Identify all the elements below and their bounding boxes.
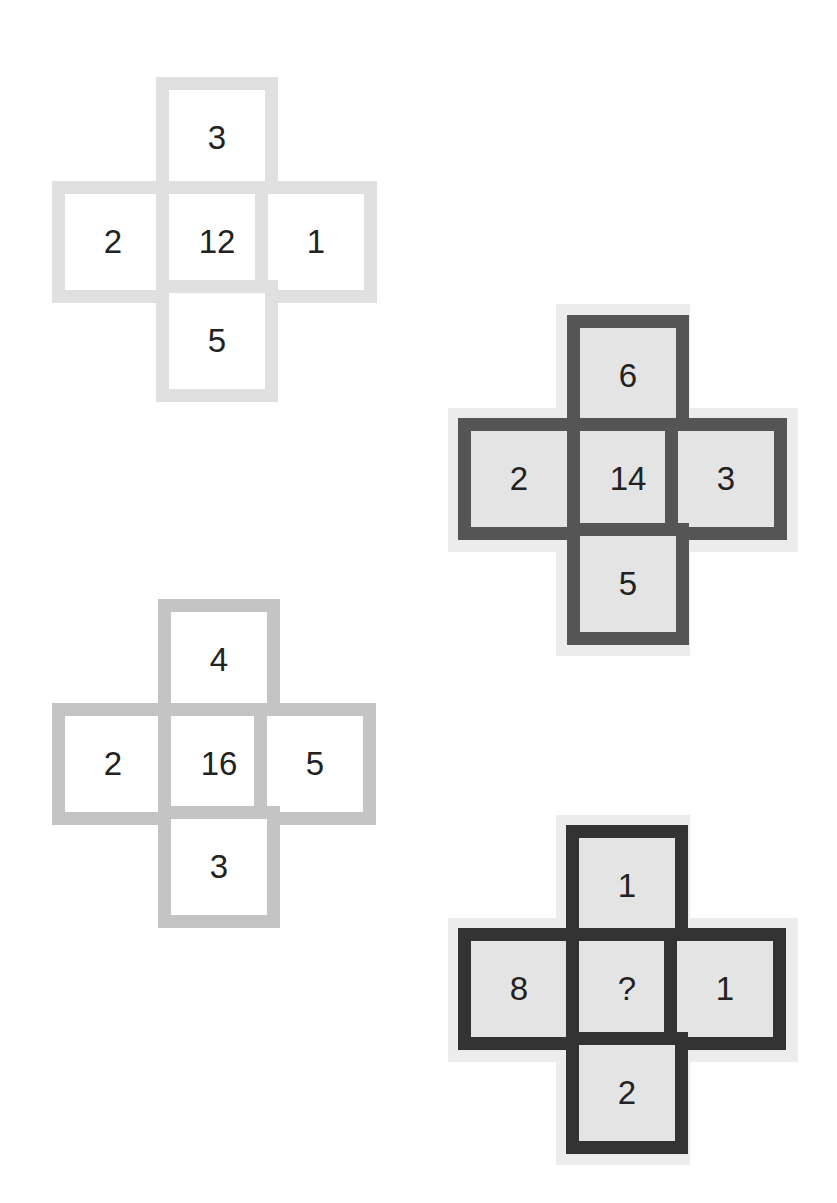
cross-4-left-cell: 8 [458,928,580,1050]
cross-3-bottom-value: 3 [210,848,228,886]
cross-2-left-cell: 2 [458,418,580,540]
cross-3: 4 2 16 5 3 [52,599,382,929]
cross-3-left-cell: 2 [52,703,174,825]
cross-1: 3 2 12 1 5 [52,77,382,407]
cross-1-left-value: 2 [104,223,122,261]
cross-4-right-value: 1 [716,970,734,1008]
cross-3-center-value: 16 [201,745,238,783]
cross-1-top-value: 3 [208,119,226,157]
cross-2: 6 2 14 3 5 [458,315,788,645]
cross-4-center-value: ? [618,970,636,1008]
cross-2-bottom-value: 5 [619,565,637,603]
cross-3-right-value: 5 [306,745,324,783]
cross-2-center-value: 14 [610,460,647,498]
cross-2-left-value: 2 [510,460,528,498]
cross-1-right-value: 1 [307,223,325,261]
cross-3-bottom-cell: 3 [158,806,280,928]
cross-1-center-value: 12 [199,223,236,261]
cross-1-bottom-value: 5 [208,322,226,360]
cross-2-right-value: 3 [717,460,735,498]
cross-4: 1 8 ? 1 2 [458,825,788,1155]
cross-3-left-value: 2 [104,745,122,783]
cross-2-right-cell: 3 [665,418,787,540]
cross-2-top-value: 6 [619,357,637,395]
cross-3-top-value: 4 [210,641,228,679]
cross-4-bottom-value: 2 [618,1074,636,1112]
cross-1-bottom-cell: 5 [156,280,278,402]
cross-4-bottom-cell: 2 [566,1032,688,1154]
cross-4-top-value: 1 [618,867,636,905]
cross-2-bottom-cell: 5 [567,523,689,645]
cross-4-left-value: 8 [510,970,528,1008]
